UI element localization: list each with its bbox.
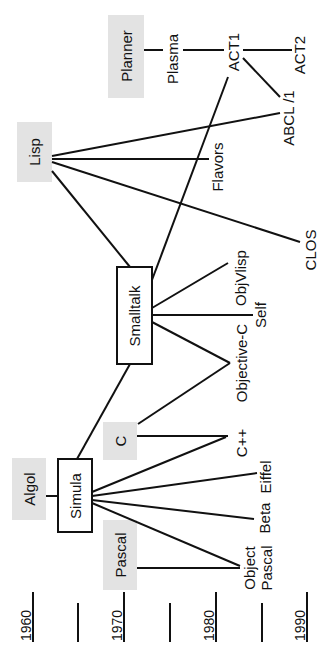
node-act1: ACT1: [225, 33, 242, 71]
timeline-axis: 1960 1970 1980 1990: [18, 592, 308, 642]
node-objvlisp: ObjVlisp: [232, 250, 249, 306]
node-plasma: Plasma: [164, 33, 181, 84]
node-cpp: C++: [233, 429, 250, 458]
node-object-pascal-line1: Object: [241, 545, 258, 589]
node-planner: Planner: [118, 30, 135, 82]
year-label-1960: 1960: [18, 610, 34, 641]
edge-act1-abcl1: [243, 58, 280, 97]
language-genealogy-diagram: 1960 1970 1980 1990 Algol Simula: [0, 0, 331, 654]
node-lisp: Lisp: [26, 138, 43, 166]
year-label-1980: 1980: [201, 610, 217, 641]
node-pascal: Pascal: [112, 532, 129, 577]
node-object-pascal-line2: Pascal: [258, 545, 275, 590]
edge-lisp-abcl1: [52, 113, 280, 156]
year-label-1990: 1990: [292, 610, 308, 641]
node-simula: Simula: [67, 472, 84, 519]
edge-simula-eiffel: [92, 473, 257, 496]
edge-lisp-clos: [52, 162, 300, 242]
node-flavors: Flavors: [209, 142, 226, 191]
node-self: Self: [252, 301, 269, 328]
node-c: C: [112, 435, 129, 446]
node-beta: Beta: [256, 502, 273, 534]
node-objective-c: Objective-C: [233, 324, 250, 403]
edge-smalltalk-objective-c: [152, 322, 230, 363]
node-act2: ACT2: [291, 36, 308, 74]
edge-lisp-smalltalk: [52, 171, 130, 267]
node-abcl1: ABCL /1: [280, 90, 297, 145]
node-eiffel: Eiffel: [257, 460, 274, 493]
node-algol: Algol: [21, 472, 38, 505]
edge-smalltalk-objvlisp: [152, 263, 228, 308]
edge-c-objective-c: [138, 363, 230, 424]
edge-simula-beta: [92, 500, 254, 519]
node-clos: CLOS: [302, 230, 319, 271]
year-label-1970: 1970: [109, 610, 125, 641]
node-smalltalk: Smalltalk: [126, 285, 143, 346]
